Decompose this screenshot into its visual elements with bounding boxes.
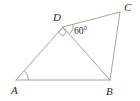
angle-label-60: 60° (74, 26, 88, 36)
vertex-label-b: B (106, 85, 113, 97)
geometry-figure: A B C D 60° (0, 0, 140, 101)
angle-arc-60-d (70, 25, 73, 34)
segment-bc (110, 12, 120, 80)
segment-dc (63, 12, 120, 27)
angle-arc-a (25, 71, 29, 80)
vertex-label-a: A (10, 84, 18, 96)
edge-group (16, 12, 120, 80)
segment-ad (16, 27, 63, 80)
vertex-label-d: D (52, 11, 61, 23)
vertex-label-group: A B C D (10, 1, 132, 97)
vertex-label-c: C (124, 1, 132, 13)
figure-canvas: A B C D 60° (0, 0, 140, 101)
